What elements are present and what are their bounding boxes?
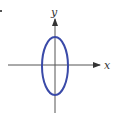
x-axis-label: x — [104, 59, 111, 72]
y-axis-label: y — [50, 6, 58, 19]
ellipse-diagram: x y — [0, 0, 113, 116]
bullet-mark — [0, 10, 2, 12]
